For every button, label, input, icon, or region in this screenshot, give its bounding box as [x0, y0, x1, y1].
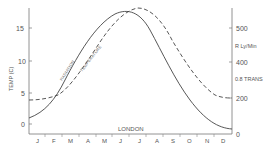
month-label: N: [205, 138, 209, 144]
right-axis-title: R Ly/Min: [235, 43, 257, 49]
month-label: J: [119, 138, 122, 144]
temperature-curve: [29, 8, 232, 100]
left-tick-15: 15: [16, 25, 24, 32]
climate-chart: 15 10 5 0 TEMP (C) 500 400 200 0 R Ly/Mi…: [0, 0, 280, 149]
month-label: F: [52, 138, 56, 144]
radiation-curve: [29, 11, 232, 129]
right-tick-0: 0: [236, 131, 240, 138]
month-label: J: [138, 138, 141, 144]
left-tick-10: 10: [18, 58, 26, 65]
month-label: O: [187, 138, 192, 144]
right-tick-500: 500: [236, 25, 248, 32]
location-label: LONDON: [118, 126, 144, 132]
month-label: A: [86, 138, 90, 144]
left-tick-5: 5: [21, 90, 25, 97]
right-annotation: 0.8 TRANS: [235, 76, 263, 82]
left-ticks: [29, 28, 32, 124]
right-ticks: [229, 28, 232, 98]
month-ticks: [45, 134, 214, 137]
month-label: S: [171, 138, 175, 144]
month-label: M: [102, 138, 107, 144]
month-label: M: [68, 138, 73, 144]
left-axis-title: TEMP (C): [8, 66, 14, 91]
month-label: A: [155, 138, 159, 144]
left-tick-0: 0: [21, 121, 25, 128]
radiation-label: RADIATION: [59, 59, 76, 81]
month-label: D: [221, 138, 226, 144]
right-tick-200: 200: [236, 95, 248, 102]
right-tick-400: 400: [236, 59, 248, 66]
month-label: J: [36, 138, 39, 144]
